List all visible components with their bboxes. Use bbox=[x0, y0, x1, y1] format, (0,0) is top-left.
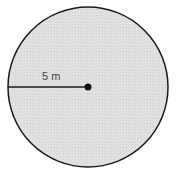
center-point bbox=[85, 84, 92, 91]
radius-label: 5 m bbox=[42, 70, 60, 82]
circle-diagram: 5 m bbox=[0, 0, 181, 179]
